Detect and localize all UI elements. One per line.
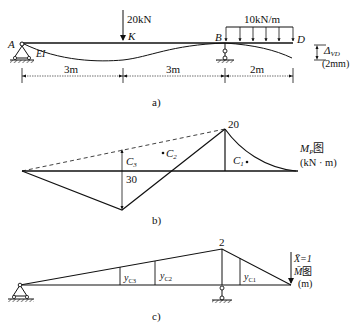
caption-a: a) xyxy=(152,96,161,109)
mp-units: (kN · m) xyxy=(300,157,337,169)
yc3-label: yC3 xyxy=(123,272,136,284)
deflection-curve xyxy=(22,43,292,61)
c3-label: C3 xyxy=(126,155,137,169)
delta-value: (2mm) xyxy=(322,58,349,70)
dim-kb: 3m xyxy=(166,63,181,75)
moment-polyline xyxy=(22,129,225,210)
caption-c: c) xyxy=(152,310,161,323)
roller-support-b xyxy=(216,43,234,63)
caption-b: b) xyxy=(152,214,162,227)
roller-support-b xyxy=(212,286,232,303)
mp-title: MP图 xyxy=(299,142,324,156)
peak-value: 20 xyxy=(228,118,240,130)
mbar-units: (m) xyxy=(298,278,312,290)
unit-load-label: X̄=1 xyxy=(293,253,312,264)
mbar-title: M̄图 xyxy=(293,266,312,277)
point-k-label: K xyxy=(127,30,136,42)
point-a-label: A xyxy=(7,38,15,50)
c1-label: C1 xyxy=(233,154,244,168)
distributed-load-label: 10kN/m xyxy=(244,13,281,25)
structural-diagram: 20kN K 10kN/m A EI B D ΔVD (2mm) xyxy=(0,0,358,336)
c1-dot xyxy=(246,161,249,164)
mid-value: 30 xyxy=(126,173,138,185)
dashed-chord xyxy=(22,129,225,171)
point-load-label: 20kN xyxy=(127,13,152,25)
c2-dot xyxy=(162,152,165,155)
point-d-label: D xyxy=(296,33,305,45)
dim-bd: 2m xyxy=(250,63,265,75)
distributed-load xyxy=(226,27,293,41)
delta-label: ΔVD xyxy=(323,44,340,58)
ei-label: EI xyxy=(35,48,46,59)
panel-c-unit-moment-diagram: 2 yC3 yC2 yC1 X̄=1 M̄图 (m) c) xyxy=(8,236,312,323)
panel-a-beam: 20kN K 10kN/m A EI B D ΔVD (2mm) xyxy=(7,10,349,109)
c2-label: C2 xyxy=(166,147,177,161)
dim-ak: 3m xyxy=(64,63,79,75)
peak-value: 2 xyxy=(219,236,225,248)
yc1-label: yC1 xyxy=(243,271,256,283)
point-b-label: B xyxy=(215,31,222,43)
panel-b-mp-diagram: 20 30 C3 C2 C1 MP图 (kN · m) b) xyxy=(22,118,337,227)
pin-support-a xyxy=(8,283,34,302)
yc2-label: yC2 xyxy=(159,270,172,282)
